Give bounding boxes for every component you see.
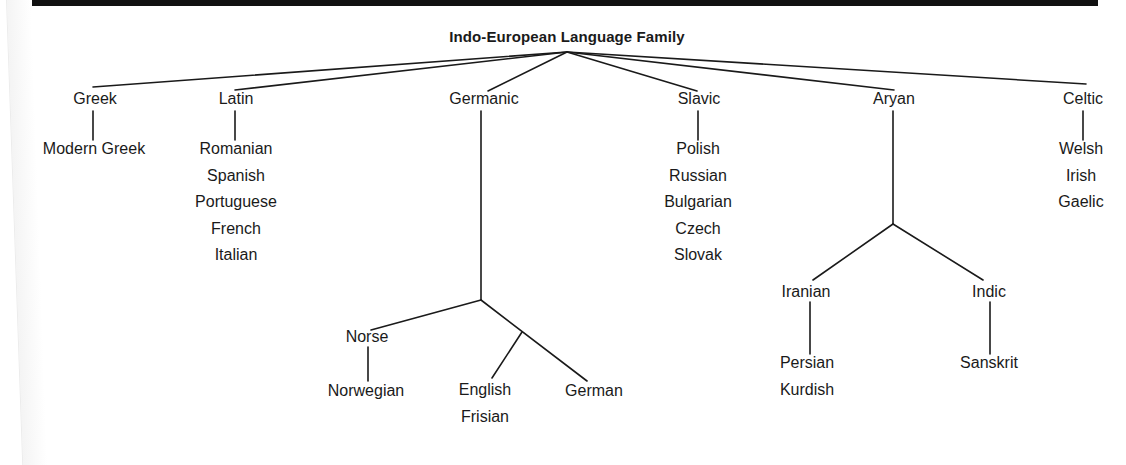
language-german: German (565, 382, 623, 400)
language-romanian: Romanian (195, 136, 277, 163)
iranian-children: Persian Kurdish (780, 350, 834, 403)
language-welsh: Welsh (1058, 136, 1103, 163)
language-polish: Polish (664, 136, 732, 163)
language-italian: Italian (195, 242, 277, 269)
edge-root-germanic (488, 52, 567, 91)
edge-root-celtic (567, 52, 1086, 84)
node-aryan: Aryan (873, 90, 915, 108)
edge-germanic-norse (371, 300, 481, 330)
edge-root-greek (93, 52, 567, 87)
language-french: French (195, 216, 277, 243)
node-slavic: Slavic (678, 90, 721, 108)
language-persian: Persian (780, 350, 834, 377)
language-bulgarian: Bulgarian (664, 189, 732, 216)
language-czech: Czech (664, 216, 732, 243)
edge-germanic-west (481, 300, 587, 381)
language-russian: Russian (664, 163, 732, 190)
language-norwegian: Norwegian (328, 382, 404, 400)
edge-root-aryan (567, 52, 894, 90)
slavic-children: Polish Russian Bulgarian Czech Slovak (664, 136, 732, 269)
language-frisian: Frisian (459, 404, 511, 431)
greek-children: Modern Greek (43, 136, 145, 163)
language-spanish: Spanish (195, 163, 277, 190)
node-indic: Indic (972, 283, 1006, 301)
language-modern-greek: Modern Greek (43, 136, 145, 163)
latin-children: Romanian Spanish Portuguese French Itali… (195, 136, 277, 269)
edge-aryan-iranian (813, 224, 893, 280)
node-celtic: Celtic (1063, 90, 1103, 108)
language-portuguese: Portuguese (195, 189, 277, 216)
edge-west-english (492, 332, 522, 378)
edge-root-slavic (567, 52, 697, 91)
indic-children: Sanskrit (960, 350, 1018, 377)
tree-connector-lines (0, 0, 1126, 465)
node-norse: Norse (346, 328, 389, 346)
diagram-title: Indo-European Language Family (4, 28, 1126, 45)
celtic-children: Welsh Irish Gaelic (1058, 136, 1103, 216)
node-greek: Greek (73, 90, 117, 108)
language-slovak: Slovak (664, 242, 732, 269)
language-kurdish: Kurdish (780, 377, 834, 404)
node-latin: Latin (219, 90, 254, 108)
edge-root-latin (235, 52, 567, 90)
language-english: English (459, 377, 511, 404)
edge-aryan-indic (893, 224, 983, 280)
language-irish: Irish (1058, 163, 1103, 190)
english-group: English Frisian (459, 377, 511, 430)
node-iranian: Iranian (782, 283, 831, 301)
node-germanic: Germanic (449, 90, 518, 108)
language-sanskrit: Sanskrit (960, 350, 1018, 377)
language-gaelic: Gaelic (1058, 189, 1103, 216)
